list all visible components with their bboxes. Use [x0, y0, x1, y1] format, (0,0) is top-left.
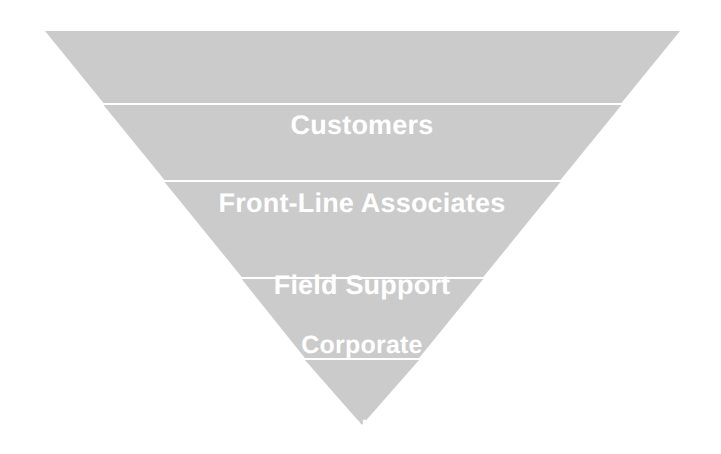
inverted-pyramid-diagram: Customers Front-Line Associates Field Su… — [0, 0, 721, 454]
pyramid-band-front-line-associates — [104, 105, 622, 180]
pyramid-band-customers — [45, 31, 680, 103]
pyramid-band-ceo — [305, 360, 419, 425]
pyramid-band-corporate-support — [242, 279, 484, 358]
pyramid-shape — [0, 0, 721, 454]
pyramid-band-field-support — [165, 182, 561, 277]
